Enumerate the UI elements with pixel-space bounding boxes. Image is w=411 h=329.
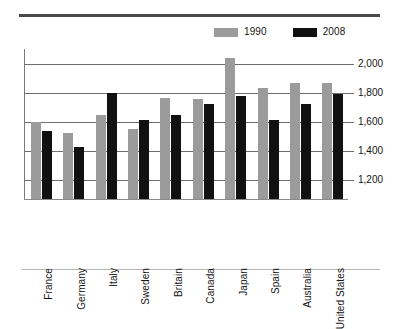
bar-spain-1990[interactable] (258, 88, 268, 199)
x-axis-label-canada: Canada (206, 268, 216, 304)
legend-swatch-2008 (293, 28, 317, 37)
bar-britain-1990[interactable] (160, 98, 170, 199)
bar-united-states-2008[interactable] (333, 94, 343, 199)
bar-italy-2008[interactable] (107, 93, 117, 199)
x-axis-label-united-states: United States (336, 268, 346, 329)
legend-label: 1990 (244, 27, 267, 37)
bar-canada-2008[interactable] (204, 104, 214, 199)
x-axis-label-australia: Australia (303, 268, 313, 308)
bar-sweden-2008[interactable] (139, 120, 149, 199)
legend-item-2008[interactable]: 2008 (293, 27, 346, 37)
x-axis-label-sweden: Sweden (141, 268, 151, 305)
legend-swatch-1990 (214, 28, 238, 37)
bar-australia-1990[interactable] (290, 83, 300, 200)
bar-spain-2008[interactable] (269, 120, 279, 199)
x-axis-label-germany: Germany (77, 268, 87, 310)
bar-germany-1990[interactable] (63, 133, 73, 199)
x-axis-category-labels: FranceGermanyItalySwedenBritainCanadaJap… (24, 200, 348, 270)
y-tick-mark-1400 (348, 151, 354, 152)
bar-france-2008[interactable] (42, 131, 52, 199)
y-tick-label-1800: 1,800 (358, 88, 383, 98)
bar-germany-2008[interactable] (74, 147, 84, 199)
bar-britain-2008[interactable] (171, 115, 181, 199)
x-axis-label-spain: Spain (271, 268, 281, 294)
legend-label: 2008 (323, 27, 346, 37)
x-axis-label-japan: Japan (239, 268, 249, 296)
bar-australia-2008[interactable] (301, 104, 311, 199)
x-axis-label-france: France (44, 268, 54, 300)
y-tick-label-1400: 1,400 (358, 146, 383, 156)
y-tick-mark-2000 (348, 64, 354, 65)
y-tick-mark-1200 (348, 180, 354, 181)
y-tick-label-1600: 1,600 (358, 117, 383, 127)
y-tick-label-1200: 1,200 (358, 175, 383, 185)
chart-legend: 19902008 (214, 25, 345, 39)
y-tick-mark-1800 (348, 93, 354, 94)
y-tick-label-2000: 2,000 (358, 59, 383, 69)
bar-united-states-1990[interactable] (322, 83, 332, 199)
legend-item-1990[interactable]: 1990 (214, 27, 267, 37)
bar-italy-1990[interactable] (96, 115, 106, 199)
bars-layer (24, 49, 348, 200)
x-axis-label-italy: Italy (109, 268, 119, 287)
bar-japan-2008[interactable] (236, 96, 246, 199)
bar-france-1990[interactable] (31, 122, 41, 199)
bar-canada-1990[interactable] (193, 99, 203, 199)
top-divider-rule (19, 14, 380, 17)
bar-japan-1990[interactable] (225, 58, 235, 199)
y-tick-mark-1600 (348, 122, 354, 123)
x-axis-label-britain: Britain (174, 268, 184, 297)
bar-chart-plot-area (24, 49, 348, 199)
bar-sweden-1990[interactable] (128, 129, 138, 199)
